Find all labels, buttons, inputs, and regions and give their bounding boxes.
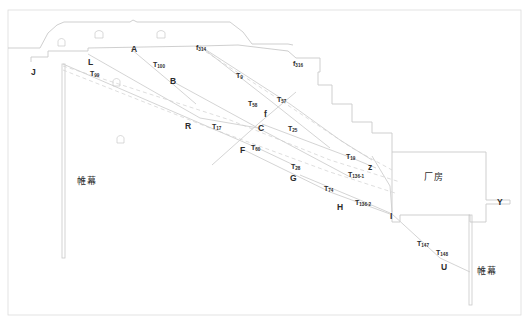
- point-label-f: f: [264, 110, 267, 119]
- grout-curtain-left: [62, 64, 65, 258]
- fault-label-T147: T147: [417, 240, 429, 248]
- cn-label-curtain-right: 帷幕: [477, 267, 497, 276]
- fault-line-T57: [200, 46, 330, 148]
- dashed-line-d1: [63, 66, 400, 182]
- fault-label-T74: T74: [324, 185, 333, 193]
- fault-line-T25: [262, 124, 376, 168]
- terrain-outline: [8, 20, 293, 48]
- fault-label-T19: T19: [346, 153, 355, 161]
- fault-line-T17: [88, 54, 258, 128]
- cn-label-powerhouse: 厂房: [424, 173, 444, 182]
- point-label-Y: Y: [497, 198, 503, 207]
- point-label-I: I: [390, 212, 392, 221]
- point-label-G: G: [290, 174, 297, 183]
- point-label-F: F: [240, 146, 245, 155]
- fault-label-T136-2: T136-2: [355, 199, 371, 207]
- diagram-canvas: JLABRCfFGzHIUYT99T100T9T58T57T17T25T60T1…: [0, 0, 531, 325]
- point-label-L: L: [88, 58, 93, 67]
- fault-line-T136-1: [372, 156, 392, 212]
- fault-label-T9: T9: [236, 72, 243, 80]
- gallery-g3: [157, 31, 165, 39]
- fault-label-T99: T99: [90, 70, 99, 78]
- point-label-C: C: [258, 124, 264, 133]
- fault-label-T148: T148: [436, 249, 448, 257]
- fault-line-T147: [392, 214, 470, 272]
- cross-section-svg: [0, 0, 531, 325]
- gallery-g5: [117, 136, 124, 144]
- fault-line-T74: [300, 175, 390, 213]
- fault-label-T60: T60: [251, 144, 260, 152]
- gallery-g4: [113, 79, 120, 87]
- point-label-J: J: [31, 68, 36, 77]
- fault-label-T136-1: T136-1: [348, 171, 364, 179]
- f-label-f316: f316: [293, 60, 303, 68]
- point-label-B: B: [170, 77, 176, 86]
- point-label-U: U: [441, 263, 447, 272]
- fault-label-T57: T57: [277, 96, 286, 104]
- fault-label-T58: T58: [248, 100, 257, 108]
- f-label-f314: f314: [196, 44, 206, 52]
- point-label-H: H: [337, 203, 343, 212]
- fault-label-T25: T25: [288, 125, 297, 133]
- point-label-Z: z: [368, 163, 372, 172]
- powerhouse-outline: [392, 152, 510, 222]
- fault-label-T28: T28: [291, 163, 300, 171]
- grout-curtain-right: [469, 215, 472, 305]
- fault-label-T17: T17: [212, 123, 221, 131]
- gallery-g2: [95, 31, 103, 39]
- fault-label-T100: T100: [153, 61, 165, 69]
- point-label-R: R: [185, 122, 191, 131]
- cn-label-curtain-left: 帷幕: [77, 177, 97, 186]
- gallery-g1: [58, 39, 65, 47]
- point-label-A: A: [131, 45, 137, 54]
- excavation-bench-profile: [31, 45, 392, 152]
- fault-line-T100: [131, 49, 196, 104]
